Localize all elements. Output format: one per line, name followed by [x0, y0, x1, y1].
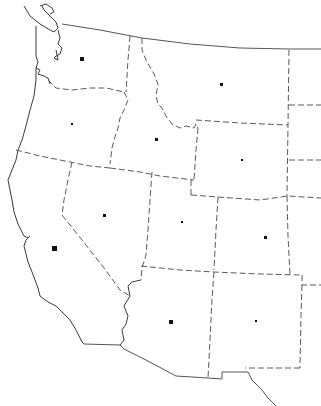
or-ca-nv-border: [16, 150, 110, 168]
nm-east-border: [300, 285, 302, 368]
wa-id-border: [126, 36, 130, 92]
az-nm-border: [208, 272, 214, 378]
city-dot-oregon: [71, 123, 73, 125]
id-wy-border: [194, 128, 198, 180]
ut-co-border: [214, 197, 218, 270]
pacific-coastline: [8, 4, 84, 344]
four-corners-line: [141, 266, 300, 275]
wy-south-border: [191, 195, 321, 200]
city-dot-washington: [80, 57, 84, 61]
nv-ut-border: [141, 172, 152, 280]
city-dot-utah: [181, 221, 183, 223]
city-dot-nevada: [103, 214, 106, 217]
co-north-east-border: [287, 196, 290, 275]
city-dots: [52, 57, 267, 324]
ca-nv-border: [62, 162, 130, 296]
city-dot-colorado: [264, 236, 267, 239]
or-id-border: [110, 92, 128, 164]
city-dot-california: [52, 246, 57, 251]
western-us-map: [0, 0, 321, 406]
city-dot-wyoming: [241, 159, 243, 161]
wy-mt-border: [196, 120, 288, 125]
city-dot-idaho: [155, 138, 158, 141]
mexico-border: [84, 344, 276, 406]
city-dot-arizona: [169, 320, 173, 324]
wa-or-border: [48, 80, 124, 92]
co-east-border: [302, 275, 321, 285]
colorado-river-border: [120, 280, 141, 345]
mt-dakota-border: [287, 50, 289, 196]
canada-border: [62, 24, 321, 49]
id-mt-border: [142, 38, 198, 128]
city-dot-new-mexico: [255, 320, 257, 322]
city-dot-montana: [220, 83, 223, 86]
